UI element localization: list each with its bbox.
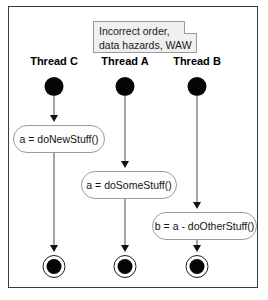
end-node-thread-a[interactable] bbox=[114, 255, 137, 278]
edge-start-b-to-other-stuff bbox=[197, 95, 198, 204]
edge-start-c-to-new-stuff bbox=[54, 95, 55, 117]
start-node-thread-b[interactable] bbox=[188, 77, 207, 96]
arrowhead-start-c-to-new-stuff-icon bbox=[50, 115, 58, 122]
thread-label-a: Thread A bbox=[101, 55, 148, 67]
action-do-other-stuff[interactable]: b = a - doOtherStuff() bbox=[152, 212, 257, 240]
thread-label-c: Thread C bbox=[30, 55, 78, 67]
action-do-new-stuff[interactable]: a = doNewStuff() bbox=[13, 125, 105, 153]
arrowhead-start-a-to-some-stuff-icon bbox=[121, 161, 129, 168]
arrowhead-start-b-to-other-stuff-icon bbox=[193, 202, 201, 209]
edge-new-stuff-to-end-c bbox=[54, 153, 55, 247]
arrowhead-new-stuff-to-end-c-icon bbox=[50, 245, 58, 252]
note-box[interactable]: Incorrect order, data hazards, WAW bbox=[93, 21, 197, 53]
diagram-canvas: Incorrect order, data hazards, WAW Threa… bbox=[0, 0, 268, 300]
action-do-some-stuff-label: a = doSomeStuff() bbox=[86, 179, 171, 191]
start-node-thread-c[interactable] bbox=[45, 77, 64, 96]
arrowhead-other-stuff-to-end-b-icon bbox=[193, 245, 201, 252]
action-do-new-stuff-label: a = doNewStuff() bbox=[20, 133, 99, 145]
thread-label-b: Thread B bbox=[173, 55, 221, 67]
arrowhead-some-stuff-to-end-a-icon bbox=[121, 245, 129, 252]
end-node-thread-c[interactable] bbox=[43, 255, 66, 278]
note-text: Incorrect order, data hazards, WAW bbox=[99, 24, 193, 52]
edge-some-stuff-to-end-a bbox=[125, 199, 126, 247]
start-node-thread-a[interactable] bbox=[116, 77, 135, 96]
action-do-other-stuff-label: b = a - doOtherStuff() bbox=[155, 220, 254, 232]
action-do-some-stuff[interactable]: a = doSomeStuff() bbox=[81, 171, 177, 199]
diagram-frame: Incorrect order, data hazards, WAW Threa… bbox=[8, 6, 258, 288]
edge-start-a-to-some-stuff bbox=[125, 95, 126, 163]
end-node-thread-b[interactable] bbox=[186, 255, 209, 278]
